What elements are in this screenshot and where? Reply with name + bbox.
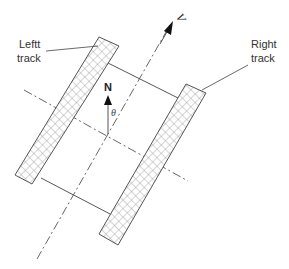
left-track-leader-line xyxy=(46,46,98,51)
angle-theta-label: θ xyxy=(111,107,116,118)
right-track-label-line1: Right xyxy=(251,38,277,50)
body-top-edge xyxy=(108,63,180,99)
left-track-label-line2: track xyxy=(17,52,41,64)
velocity-arrow-icon xyxy=(160,21,173,44)
right-track-label-line2: track xyxy=(251,52,275,64)
tracked-vehicle-diagram: Leftt track Right track V N θ xyxy=(0,0,289,269)
body-bottom-edge xyxy=(41,178,112,215)
north-label: N xyxy=(104,81,112,93)
left-track-label-line1: Leftt xyxy=(19,38,40,50)
right-track-leader-line xyxy=(202,65,248,90)
velocity-label: V xyxy=(173,11,190,26)
